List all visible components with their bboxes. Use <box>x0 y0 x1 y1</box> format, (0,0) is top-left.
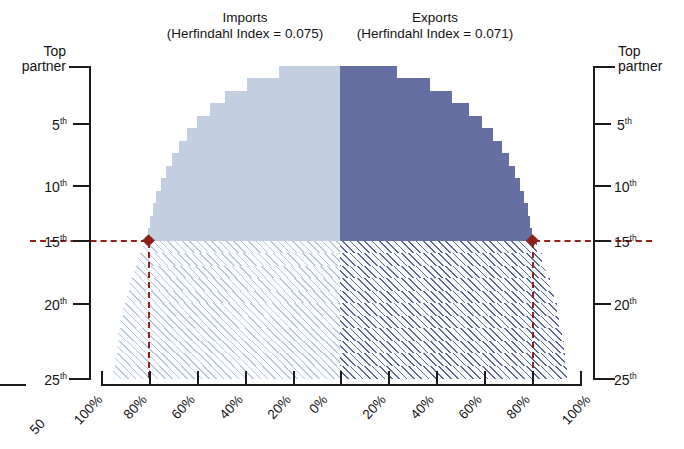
plot-area <box>101 66 580 378</box>
right-y-label-25th: 25th <box>614 369 637 388</box>
bar-exports-rank-18 <box>340 278 550 291</box>
bar-imports-rank-16 <box>138 253 340 266</box>
bar-imports-rank-7 <box>179 141 340 154</box>
bar-exports-rank-9 <box>340 166 515 179</box>
left-x-label-40-text: 40% <box>217 392 246 422</box>
right-x-label-100-text: 100% <box>559 392 594 427</box>
left-x-label-60-text: 60% <box>169 392 198 422</box>
left-y-label-15th: 15th <box>0 231 67 250</box>
right-y-label-20th: 20th <box>614 294 637 313</box>
right-y-label-top-partner: Top partner <box>618 44 684 73</box>
left-y-label-top-line2: partner <box>0 59 66 74</box>
right-y-tick-5 <box>593 123 611 125</box>
right-x-label-40: 40% <box>408 392 437 422</box>
right-x-tick-100 <box>580 371 582 386</box>
right-x-tick-20 <box>388 371 390 386</box>
right-x-label-20: 20% <box>360 392 389 422</box>
exports-threshold-guide-vertical <box>532 242 534 378</box>
left-y-label-top-line1: Top <box>0 44 66 59</box>
right-y-tick-25 <box>593 378 615 380</box>
right-y-tick-20 <box>593 303 611 305</box>
right-y-label-top-line1: Top <box>618 44 684 59</box>
right-x-label-100: 100% <box>559 392 594 427</box>
imports-threshold-guide-vertical <box>148 242 150 378</box>
right-x-tick-40 <box>436 371 438 386</box>
bar-exports-rank-21 <box>340 316 559 329</box>
left-y-label-25th-text: 25th <box>44 372 67 388</box>
exports-title-line1: Exports <box>340 10 530 26</box>
left-y-label-10th-text: 10th <box>44 179 67 195</box>
bar-exports-rank-22 <box>340 328 562 341</box>
left-y-tick-10 <box>73 185 91 187</box>
left-x-label-20: 20% <box>265 392 294 422</box>
right-y-label-25th-text: 25th <box>614 372 637 388</box>
bar-imports-rank-9 <box>166 166 340 179</box>
right-y-label-20th-text: 20th <box>614 297 637 313</box>
bar-imports-rank-12 <box>153 203 340 216</box>
bar-exports-rank-13 <box>340 216 530 229</box>
bar-exports-rank-7 <box>340 141 502 154</box>
left-x-label-40: 40% <box>217 392 246 422</box>
bar-imports-rank-21 <box>121 316 340 329</box>
left-x-label-80-text: 80% <box>121 392 150 422</box>
bar-exports-rank-23 <box>340 341 564 354</box>
center-x-label-0-text: 0% <box>306 392 330 417</box>
right-x-label-40-text: 40% <box>408 392 437 422</box>
bar-imports-rank-8 <box>172 153 340 166</box>
left-x-tick-100 <box>101 371 103 386</box>
bar-imports-rank-17 <box>134 266 340 279</box>
right-x-tick-80 <box>532 371 534 386</box>
right-y-tick-10 <box>593 185 611 187</box>
left-y-tick-5 <box>73 123 91 125</box>
left-y-tick-20 <box>73 303 91 305</box>
right-x-label-80: 80% <box>504 392 533 422</box>
left-y-tick-15 <box>73 240 91 242</box>
bar-exports-rank-4 <box>340 103 469 116</box>
bar-exports-rank-20 <box>340 303 557 316</box>
right-y-label-5th-text: 5th <box>617 117 632 133</box>
right-x-label-60-text: 60% <box>456 392 485 422</box>
right-x-label-60: 60% <box>456 392 485 422</box>
left-x-label-20-text: 20% <box>265 392 294 422</box>
bar-imports-rank-4 <box>210 103 340 116</box>
right-y-tick-top <box>593 66 615 68</box>
bar-exports-rank-11 <box>340 191 524 204</box>
center-x-label-0: 0% <box>306 392 330 417</box>
left-y-label-5th: 5th <box>0 114 67 133</box>
right-x-label-80-text: 80% <box>504 392 533 422</box>
chart-figure: Imports (Herfindahl Index = 0.075) Expor… <box>0 0 684 449</box>
bar-imports-rank-13 <box>150 216 340 229</box>
bar-exports-rank-15 <box>340 241 537 254</box>
bar-exports-rank-14 <box>340 228 532 241</box>
right-x-tick-60 <box>484 371 486 386</box>
stray-bracket-shape <box>0 384 26 416</box>
bar-exports-rank-12 <box>340 203 528 216</box>
left-y-axis-line <box>89 66 91 380</box>
left-y-tick-top <box>69 66 91 68</box>
right-y-tick-15 <box>593 240 611 242</box>
imports-title-line1: Imports <box>150 10 340 26</box>
bar-exports-rank-1 <box>340 66 397 79</box>
right-y-label-10th-text: 10th <box>614 179 637 195</box>
right-y-label-15th-text: 15th <box>614 234 637 250</box>
stray-clipped-bracket: 50 <box>0 378 46 449</box>
left-y-label-20th: 20th <box>0 294 67 313</box>
bar-exports-rank-2 <box>340 78 430 91</box>
exports-title-line2: (Herfindahl Index = 0.071) <box>340 26 530 42</box>
left-x-tick-80 <box>149 371 151 386</box>
left-x-label-60: 60% <box>169 392 198 422</box>
right-y-label-10th: 10th <box>614 176 637 195</box>
bar-imports-rank-23 <box>117 341 340 354</box>
bar-imports-rank-3 <box>225 91 340 104</box>
left-x-label-100: 100% <box>71 392 106 427</box>
left-y-label-top-partner: Top partner <box>0 44 66 73</box>
right-y-label-top-line2: partner <box>618 59 684 74</box>
left-y-label-5th-text: 5th <box>52 117 67 133</box>
left-y-label-20th-text: 20th <box>44 297 67 313</box>
right-x-label-20-text: 20% <box>360 392 389 422</box>
bar-imports-rank-1 <box>279 66 340 79</box>
left-x-tick-40 <box>245 371 247 386</box>
bar-exports-rank-3 <box>340 91 452 104</box>
right-y-label-5th: 5th <box>617 114 632 133</box>
center-x-tick-0 <box>340 371 342 386</box>
